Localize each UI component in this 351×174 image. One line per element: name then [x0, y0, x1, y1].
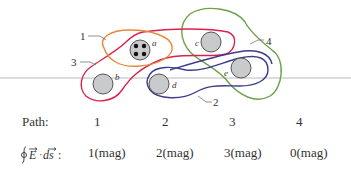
wire-d: d — [149, 74, 177, 94]
path-label-1: 1 — [94, 114, 101, 130]
line-integral-symbol: E · ds : — [20, 145, 64, 165]
wire-c: c — [195, 32, 221, 52]
integral-value-1: 1(mag) — [88, 145, 126, 161]
svg-text:d: d — [172, 80, 177, 90]
ampere-paths-diagram: a b c d e 1 3 4 2 — [0, 0, 351, 115]
label-path-2: 2 — [198, 96, 219, 108]
integral-value-3: 3(mag) — [224, 145, 262, 161]
svg-text:2: 2 — [213, 96, 219, 108]
svg-text:1: 1 — [80, 30, 86, 42]
integral-value-4: 0(mag) — [290, 145, 328, 161]
svg-text:3: 3 — [71, 56, 77, 68]
integral-header: E · ds : — [20, 145, 64, 165]
svg-text:·: · — [39, 149, 42, 160]
path-label-3: 3 — [229, 114, 236, 130]
path-header: Path: — [22, 114, 49, 130]
path-label-2: 2 — [162, 114, 169, 130]
svg-text:a: a — [152, 38, 157, 48]
wire-a: a — [130, 38, 157, 60]
svg-text:e: e — [224, 68, 228, 78]
integral-value-2: 2(mag) — [156, 145, 194, 161]
svg-text:b: b — [115, 72, 120, 82]
svg-text:ds: ds — [43, 148, 54, 162]
svg-text:4: 4 — [266, 35, 272, 47]
svg-text:c: c — [195, 38, 199, 48]
svg-text::: : — [58, 148, 61, 162]
path-label-4: 4 — [296, 114, 303, 130]
wire-b: b — [93, 72, 120, 94]
path-2-inner — [170, 51, 272, 70]
